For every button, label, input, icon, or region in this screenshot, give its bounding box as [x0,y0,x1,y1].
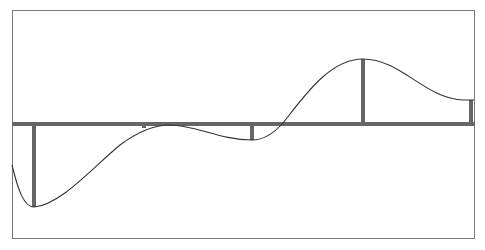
stems [34,59,471,207]
stem-curve-chart [0,0,485,250]
interpolated-curve [12,59,474,207]
